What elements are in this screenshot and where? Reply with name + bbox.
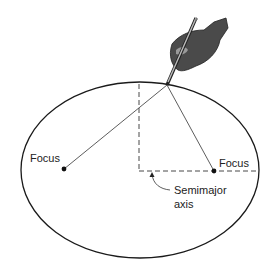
- ellipse-orbit: [21, 82, 259, 258]
- string-left: [64, 85, 167, 169]
- focus-right-dot: [212, 169, 217, 174]
- semimajor-pointer-arrow: [152, 174, 170, 190]
- hand-with-pencil-icon: [167, 17, 228, 85]
- ellipse-diagram: [0, 0, 271, 268]
- semimajor-label-line1: Semimajor: [174, 184, 227, 196]
- focus-left-label: Focus: [30, 152, 60, 164]
- focus-right-label: Focus: [219, 157, 249, 169]
- semimajor-label-line2: axis: [174, 198, 194, 210]
- focus-left-dot: [62, 167, 67, 172]
- arrowhead-icon: [150, 172, 155, 177]
